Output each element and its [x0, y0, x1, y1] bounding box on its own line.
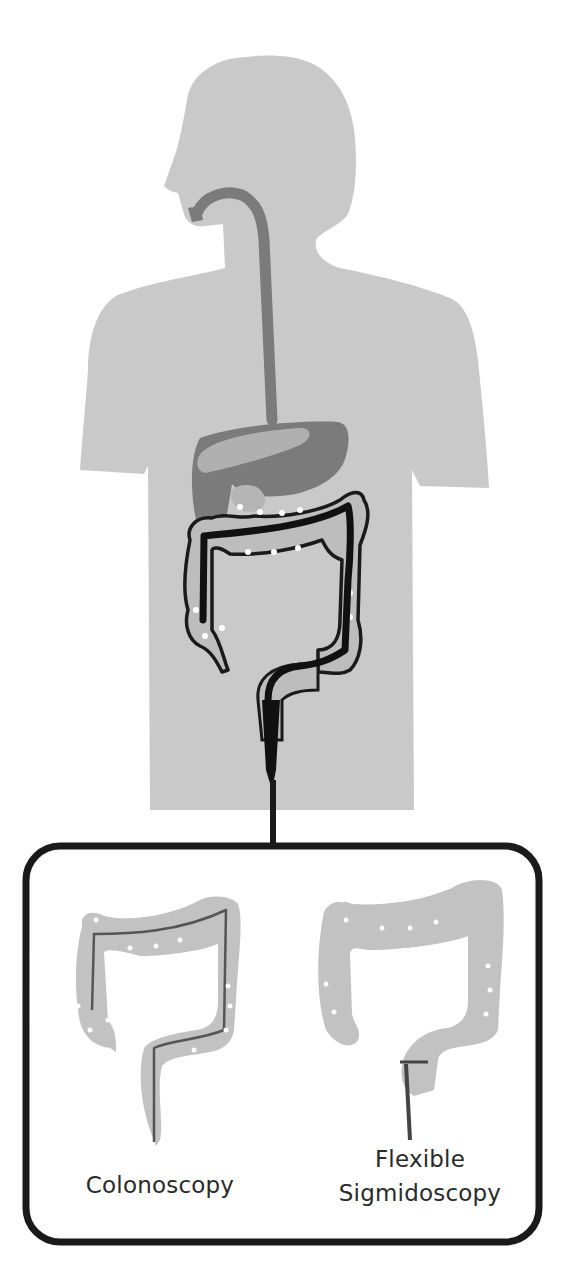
endoscopy-diagram — [0, 0, 578, 1283]
flexible-sigmoidoscopy-label: Flexible Sigmidoscopy — [305, 1142, 535, 1210]
colonoscopy-label: Colonoscopy — [60, 1168, 260, 1202]
flexible-sigmoidoscopy-label-line1: Flexible — [305, 1142, 535, 1176]
flexible-sigmoidoscopy-label-line2: Sigmidoscopy — [305, 1176, 535, 1210]
